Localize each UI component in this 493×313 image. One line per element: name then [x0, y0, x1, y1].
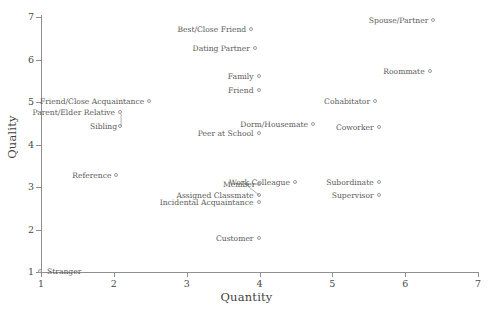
data-point-parent-elder-relative[interactable]	[118, 110, 122, 114]
y-tick-mark-6	[36, 60, 41, 61]
data-label-member: Member	[223, 181, 255, 189]
y-tick-mark-2	[36, 230, 41, 231]
data-label-coworker: Coworker	[336, 124, 374, 132]
scatter-plot-chart: Quality Quantity 1234567 1234567 Spouse/…	[0, 0, 493, 313]
data-label-parent-elder-relative: Parent/Elder Relative	[32, 109, 115, 117]
data-point-member[interactable]	[257, 182, 261, 186]
y-tick-mark-3	[36, 187, 41, 188]
y-tick-label-3: 3	[12, 182, 34, 192]
y-tick-label-4: 4	[12, 140, 34, 150]
data-label-friend-close-acquaintance: Friend/Close Acquaintance	[40, 98, 144, 106]
data-point-friend-close-acquaintance[interactable]	[147, 99, 151, 103]
x-tick-label-5: 5	[321, 279, 343, 289]
data-label-customer: Customer	[216, 235, 254, 243]
y-axis-line	[41, 15, 42, 273]
data-label-cohabitator: Cohabitator	[324, 98, 370, 106]
x-tick-mark-3	[187, 272, 188, 277]
data-point-cohabitator[interactable]	[373, 99, 377, 103]
data-point-best-close-friend[interactable]	[249, 27, 253, 31]
y-tick-label-7: 7	[12, 12, 34, 22]
data-point-roommate[interactable]	[428, 69, 432, 73]
data-point-subordinate[interactable]	[377, 180, 381, 184]
data-label-dating-partner: Dating Partner	[193, 45, 250, 53]
data-label-sibling: Sibling	[90, 123, 117, 131]
data-point-spouse-partner[interactable]	[431, 18, 435, 22]
x-tick-mark-1	[41, 272, 42, 277]
data-point-coworker[interactable]	[377, 125, 381, 129]
data-label-subordinate: Subordinate	[326, 179, 373, 187]
data-label-family: Family	[228, 73, 254, 81]
x-tick-label-4: 4	[249, 279, 271, 289]
y-axis-title: Quality	[5, 107, 19, 167]
y-tick-label-1: 1	[12, 267, 34, 277]
data-label-reference: Reference	[72, 172, 111, 180]
data-label-supervisor: Supervisor	[332, 192, 374, 200]
x-tick-mark-4	[260, 272, 261, 277]
data-point-friend[interactable]	[257, 88, 261, 92]
x-tick-label-7: 7	[467, 279, 489, 289]
x-axis-title: Quantity	[0, 290, 493, 304]
data-label-dorm-housemate: Dorm/Housemate	[240, 121, 308, 129]
data-point-work-colleague[interactable]	[293, 180, 297, 184]
data-label-spouse-partner: Spouse/Partner	[369, 17, 428, 25]
data-label-peer-at-school: Peer at School	[198, 130, 254, 138]
x-tick-label-1: 1	[30, 279, 52, 289]
data-point-stranger[interactable]	[38, 269, 42, 273]
data-label-stranger: Stranger	[47, 268, 81, 276]
data-label-incidental-acquaintance: Incidental Acquaintance	[160, 199, 254, 207]
y-tick-label-6: 6	[12, 55, 34, 65]
y-tick-label-5: 5	[12, 97, 34, 107]
data-point-assigned-classmate[interactable]	[257, 193, 261, 197]
data-point-incidental-acquaintance[interactable]	[257, 200, 261, 204]
x-tick-mark-6	[405, 272, 406, 277]
x-tick-label-6: 6	[394, 279, 416, 289]
data-point-family[interactable]	[257, 74, 261, 78]
data-point-customer[interactable]	[257, 236, 261, 240]
data-label-roommate: Roommate	[383, 68, 424, 76]
data-point-dating-partner[interactable]	[253, 46, 257, 50]
data-point-dorm-housemate[interactable]	[311, 122, 315, 126]
y-tick-label-2: 2	[12, 225, 34, 235]
data-label-best-close-friend: Best/Close Friend	[177, 26, 246, 34]
data-point-sibling[interactable]	[118, 124, 122, 128]
data-label-friend: Friend	[228, 87, 254, 95]
data-point-peer-at-school[interactable]	[257, 131, 261, 135]
data-point-reference[interactable]	[114, 173, 118, 177]
x-tick-mark-5	[332, 272, 333, 277]
y-tick-mark-7	[36, 17, 41, 18]
y-tick-mark-4	[36, 145, 41, 146]
x-tick-label-3: 3	[176, 279, 198, 289]
x-tick-label-2: 2	[103, 279, 125, 289]
x-tick-mark-7	[478, 272, 479, 277]
data-point-supervisor[interactable]	[377, 193, 381, 197]
x-tick-mark-2	[114, 272, 115, 277]
